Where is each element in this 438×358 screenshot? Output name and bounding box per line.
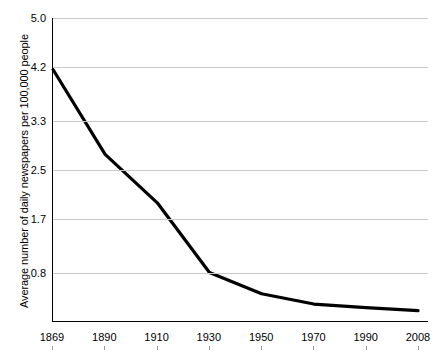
y-axis-tick-labels: 5.04.23.32.51.70.8 <box>0 18 46 322</box>
x-axis-tick-mark <box>52 346 53 350</box>
x-axis-tick-label: 1890 <box>81 330 127 344</box>
x-axis-tick-label: 1990 <box>343 330 389 344</box>
y-axis-tick-label: 5.0 <box>2 12 46 24</box>
x-axis-tick-label: 1950 <box>238 330 284 344</box>
chart-container: Average number of daily newspapers per 1… <box>0 0 438 358</box>
gridline <box>53 18 428 19</box>
chart-title <box>0 0 438 6</box>
x-axis-tick-mark <box>157 346 158 350</box>
x-axis-tick-label: 1930 <box>186 330 232 344</box>
gridline <box>53 273 428 274</box>
x-axis-tick-mark <box>104 346 105 350</box>
x-axis-tick-mark <box>313 346 314 350</box>
y-axis-tick-label: 1.7 <box>2 213 46 225</box>
x-axis-tick-labels: 18691890191019301950197019902008 <box>52 330 428 346</box>
gridline <box>53 219 428 220</box>
gridline <box>53 170 428 171</box>
x-axis-tick-mark <box>418 346 419 350</box>
y-axis-tick-label: 3.3 <box>2 115 46 127</box>
y-axis-tick-label: 2.5 <box>2 164 46 176</box>
x-axis-tick-label: 1970 <box>290 330 336 344</box>
gridline <box>53 121 428 122</box>
x-axis-tick-mark <box>209 346 210 350</box>
gridline <box>53 67 428 68</box>
x-axis-tick-label: 2008 <box>395 330 438 344</box>
x-axis-tick-label: 1869 <box>29 330 75 344</box>
x-axis-tick-label: 1910 <box>134 330 180 344</box>
plot-area <box>52 18 428 322</box>
x-axis-tick-mark <box>261 346 262 350</box>
y-axis-tick-label: 0.8 <box>2 267 46 279</box>
x-axis-tick-mark <box>366 346 367 350</box>
y-axis-tick-label: 4.2 <box>2 61 46 73</box>
